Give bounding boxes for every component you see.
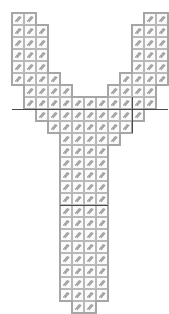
chart-cell — [72, 109, 84, 121]
chart-cell — [72, 121, 84, 133]
chart-cell — [12, 49, 24, 61]
chart-cell — [60, 145, 72, 157]
chart-outline-edge — [95, 96, 109, 98]
chart-cell — [132, 37, 144, 49]
chart-cell — [84, 193, 96, 205]
chart-cell — [60, 133, 72, 145]
chart-cell — [72, 289, 84, 301]
chart-outline-edge — [131, 120, 133, 134]
chart-cell — [84, 97, 96, 109]
chart-cell — [84, 217, 96, 229]
chart-outline-edge — [119, 132, 121, 146]
chart-cell — [60, 277, 72, 289]
chart-cell — [60, 265, 72, 277]
chart-cell — [132, 25, 144, 37]
chart-cell — [72, 205, 84, 217]
chart-cell — [84, 253, 96, 265]
chart-outline-edge — [35, 108, 37, 122]
chart-outline-edge — [23, 96, 25, 110]
chart-cell — [48, 97, 60, 109]
chart-cell — [108, 109, 120, 121]
chart-outline-edge — [107, 288, 109, 302]
chart-cell — [24, 49, 36, 61]
chart-cell — [108, 97, 120, 109]
chart-cell — [84, 241, 96, 253]
chart-cell — [132, 49, 144, 61]
chart-cell — [72, 241, 84, 253]
chart-outline-edge — [167, 72, 169, 86]
chart-cell — [144, 61, 156, 73]
chart-outline-edge — [11, 72, 13, 86]
chart-cell — [12, 13, 24, 25]
chart-cell — [48, 85, 60, 97]
chart-cell — [144, 37, 156, 49]
chart-cell — [96, 97, 108, 109]
chart-cell — [72, 181, 84, 193]
chart-cell — [60, 157, 72, 169]
chart-cell — [72, 145, 84, 157]
chart-cell — [60, 97, 72, 109]
chart-cell — [84, 169, 96, 181]
chart-cell — [84, 121, 96, 133]
chart-cell — [60, 205, 72, 217]
chart-cell — [72, 253, 84, 265]
chart-cell — [144, 49, 156, 61]
chart-cell — [84, 205, 96, 217]
chart-cell — [108, 85, 120, 97]
chart-cell — [72, 97, 84, 109]
chart-cell — [132, 61, 144, 73]
chart-cell — [72, 217, 84, 229]
chart-cell — [120, 73, 132, 85]
chart-cell — [72, 229, 84, 241]
chart-cell — [72, 277, 84, 289]
chart-outline-edge — [155, 96, 157, 110]
chart-cell — [72, 193, 84, 205]
chart-cell — [60, 181, 72, 193]
chart-outline-edge — [95, 300, 97, 314]
chart-cell — [24, 85, 36, 97]
chart-cell — [60, 229, 72, 241]
chart-cell — [84, 229, 96, 241]
chart-cell — [24, 37, 36, 49]
chart-outline-edge — [59, 288, 61, 302]
chart-cell — [132, 73, 144, 85]
chart-cell — [60, 109, 72, 121]
chart-outline-edge — [119, 72, 133, 74]
chart-cell — [12, 61, 24, 73]
chart-outline-edge — [143, 108, 145, 122]
chart-cell — [60, 241, 72, 253]
chart-cell — [24, 61, 36, 73]
chart-outline-edge — [107, 84, 121, 86]
chart-outline-edge — [131, 24, 145, 26]
chart-cell — [84, 265, 96, 277]
chart-cell — [12, 37, 24, 49]
chart-cell — [84, 133, 96, 145]
chart-cell — [72, 169, 84, 181]
chart-cell — [60, 253, 72, 265]
chart-cell — [60, 121, 72, 133]
chart-cell — [72, 133, 84, 145]
chart-cell — [84, 157, 96, 169]
chart-cell — [132, 85, 144, 97]
chart-cell — [96, 109, 108, 121]
chart-outline-edge — [71, 300, 73, 314]
chart-outline-edge — [47, 120, 49, 134]
chart-cell — [48, 109, 60, 121]
chart-cell — [36, 73, 48, 85]
chart-cell — [84, 277, 96, 289]
chart-cell — [96, 121, 108, 133]
chart-cell — [24, 73, 36, 85]
chart-cell — [84, 145, 96, 157]
chart-cell — [60, 193, 72, 205]
chart-cell — [60, 169, 72, 181]
chart-cell — [72, 157, 84, 169]
chart-cell — [120, 97, 132, 109]
chart-cell — [24, 25, 36, 37]
chart-cell — [144, 25, 156, 37]
chart-cell — [36, 97, 48, 109]
chart-cell — [84, 109, 96, 121]
chart-cell — [60, 217, 72, 229]
chart-cell — [36, 85, 48, 97]
chart-cell — [12, 25, 24, 37]
